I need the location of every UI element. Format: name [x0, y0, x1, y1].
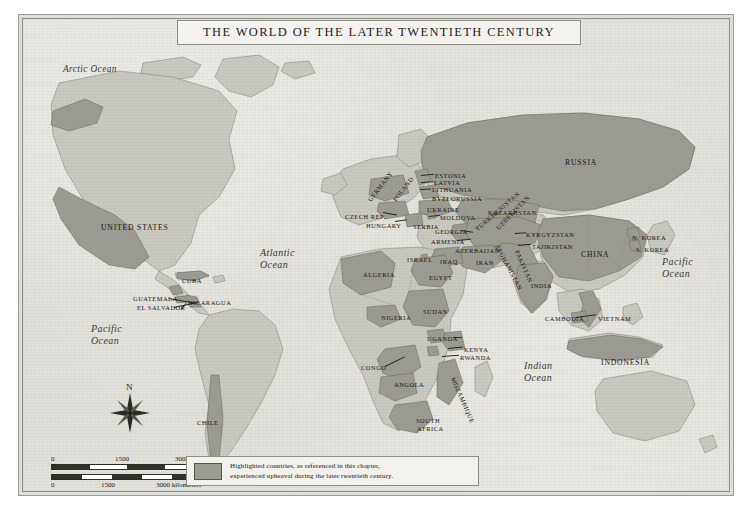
- shape-rwanda: [427, 346, 439, 356]
- map-page: Arctic OceanAtlanticOceanPacificOceanPac…: [0, 0, 754, 510]
- scale-km-bar: [51, 474, 203, 480]
- page-title: THE WORLD OF THE LATER TWENTIETH CENTURY: [203, 25, 555, 40]
- shape-s-korea: [629, 240, 641, 251]
- legend-text: Highlighted countries, as referenced in …: [230, 461, 393, 480]
- legend-line-2: experienced upheaval during the later tw…: [230, 471, 393, 481]
- map-legend: Highlighted countries, as referenced in …: [186, 456, 479, 486]
- scale-miles-bar: [51, 464, 203, 470]
- map-outer-frame: Arctic OceanAtlanticOceanPacificOceanPac…: [18, 14, 734, 496]
- shape-mozambique: [437, 359, 463, 405]
- shape-byelorussia: [419, 185, 439, 199]
- scale-km-tick-1: 1500: [101, 481, 115, 489]
- shape-india: [515, 263, 553, 313]
- scale-km-tick-0: 0: [51, 481, 55, 489]
- shape-elsalvador: [175, 296, 187, 303]
- shape-moldova: [427, 212, 436, 219]
- legend-line-1: Highlighted countries, as referenced in …: [230, 461, 393, 471]
- shape-serbia: [405, 213, 423, 227]
- compass-rose: N: [107, 383, 153, 435]
- legend-swatch-icon: [194, 463, 222, 480]
- map-inner-frame: Arctic OceanAtlanticOceanPacificOceanPac…: [22, 18, 730, 492]
- scale-miles-tick-1: 1500: [115, 455, 129, 463]
- compass-north-label: N: [126, 382, 133, 392]
- map-title-cartouche: THE WORLD OF THE LATER TWENTIETH CENTURY: [177, 20, 581, 45]
- scale-miles-tick-0: 0: [51, 455, 55, 463]
- shape-cambodia: [571, 311, 588, 323]
